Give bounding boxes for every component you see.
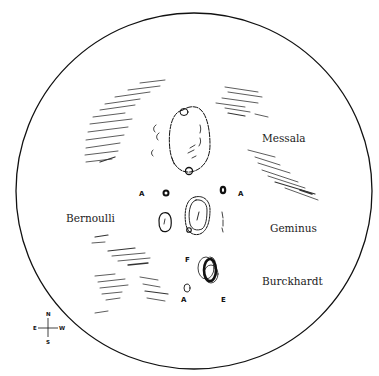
geminus-crater <box>185 197 223 235</box>
letter-messala-a: A <box>238 190 244 198</box>
compass-south: S <box>46 339 50 345</box>
shading-lower-left <box>92 235 168 313</box>
letter-burckhardt-f: F <box>185 256 190 264</box>
letter-bernoulli-a: A <box>139 190 145 198</box>
compass-north: N <box>46 311 51 317</box>
compass-west: W <box>59 325 65 331</box>
shading-right-middle <box>248 150 318 200</box>
bernoulli-crater <box>159 213 171 232</box>
compass-east: E <box>33 325 37 331</box>
lunar-sketch: Messala Bernoulli Geminus Burckhardt A A… <box>0 0 379 376</box>
label-bernoulli: Bernoulli <box>66 212 116 224</box>
letter-burckhardt-e: E <box>221 296 226 304</box>
field-of-view-circle <box>16 13 372 369</box>
label-burckhardt: Burckhardt <box>262 275 324 287</box>
messala-crater <box>152 107 211 175</box>
small-craters <box>164 187 226 196</box>
label-messala: Messala <box>262 132 306 144</box>
letter-burckhardt-a: A <box>181 296 187 304</box>
shading-upper-right <box>216 87 268 117</box>
label-geminus: Geminus <box>270 222 317 234</box>
compass-rose: N S E W <box>33 311 65 345</box>
